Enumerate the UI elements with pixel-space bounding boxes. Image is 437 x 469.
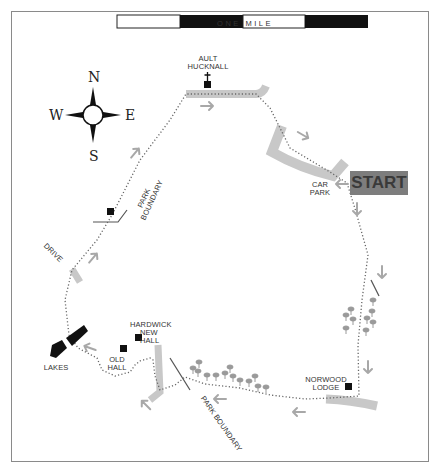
label-norwood-lodge: NORWOOD LODGE bbox=[304, 376, 348, 392]
start-badge: START bbox=[350, 171, 408, 195]
label-hardwick-new-hall: HARDWICK NEW HALL bbox=[130, 321, 170, 345]
arrow-icon bbox=[353, 203, 361, 215]
road-ault-hucknall bbox=[186, 86, 266, 94]
woodland-trees bbox=[190, 298, 376, 393]
house-park-boundary bbox=[107, 208, 114, 215]
arrow-icon bbox=[378, 266, 386, 278]
compass-west-label: W bbox=[49, 107, 63, 123]
arrow-icon bbox=[128, 146, 142, 160]
compass-south-label: S bbox=[89, 148, 99, 164]
road-car-park bbox=[272, 126, 345, 176]
lake-lower bbox=[50, 340, 67, 358]
arrow-icon bbox=[296, 129, 310, 142]
park-boundary-lines bbox=[93, 210, 379, 390]
park-boundary-east bbox=[371, 280, 379, 296]
arrow-icon bbox=[214, 395, 226, 403]
compass-rose-icon bbox=[65, 87, 121, 143]
park-boundary-south bbox=[170, 358, 190, 390]
road-old-hall bbox=[150, 345, 160, 400]
arrow-icon bbox=[293, 408, 305, 416]
arrow-icon bbox=[201, 102, 213, 110]
compass-east-label: E bbox=[125, 107, 135, 123]
label-ault-hucknall: AULT HUCKNALL bbox=[186, 55, 230, 71]
label-lakes: LAKES bbox=[40, 364, 72, 372]
road-norwood-lodge bbox=[326, 399, 377, 406]
label-old-hall: OLD HALL bbox=[105, 356, 129, 372]
arrow-icon bbox=[86, 251, 100, 265]
label-car-park: CAR PARK bbox=[305, 181, 335, 197]
ault-hucknall-church bbox=[204, 81, 211, 88]
old-hall bbox=[120, 345, 127, 352]
compass-north-label: N bbox=[88, 69, 100, 85]
lakes bbox=[50, 325, 88, 358]
walking-route bbox=[65, 94, 368, 399]
scale-caption: ONE MILE bbox=[117, 19, 373, 28]
road-drive bbox=[72, 269, 80, 282]
woodland-south bbox=[190, 360, 269, 393]
arrow-icon bbox=[364, 361, 372, 373]
woodland-east bbox=[343, 298, 376, 336]
arrow-icon bbox=[336, 180, 348, 188]
